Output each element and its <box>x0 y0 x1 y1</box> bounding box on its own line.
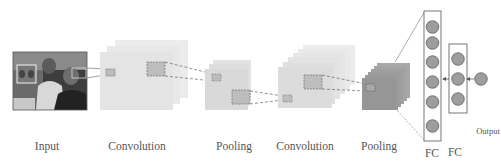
label-fc-1: FC <box>425 147 439 159</box>
label-pooling-1: Pooling <box>216 140 252 152</box>
label-output: Output <box>476 126 500 136</box>
fc1-neuron <box>426 120 439 133</box>
label-convolution-2: Convolution <box>276 140 334 152</box>
fc1-neuron <box>426 96 439 109</box>
output-neuron <box>475 73 488 86</box>
conv2-feature-maps <box>278 45 355 108</box>
fc1-neuron <box>426 76 439 89</box>
fc1-layer <box>424 11 441 141</box>
fc2-neuron <box>452 93 465 106</box>
label-pooling-2: Pooling <box>361 140 397 152</box>
fc1-neuron <box>426 37 439 50</box>
label-convolution-1: Convolution <box>108 140 166 152</box>
fc2-layer <box>449 44 467 113</box>
label-fc-2: FC <box>448 146 462 158</box>
fc2-neuron <box>452 53 465 66</box>
label-input: Input <box>35 140 59 152</box>
fc1-neuron <box>426 21 439 34</box>
pool1-feature-maps <box>205 60 251 110</box>
input-image <box>13 52 87 110</box>
pool2-feature-maps <box>362 63 410 110</box>
fc2-neuron <box>452 73 465 86</box>
fc1-neuron <box>426 56 439 69</box>
conv1-feature-maps <box>100 40 188 110</box>
